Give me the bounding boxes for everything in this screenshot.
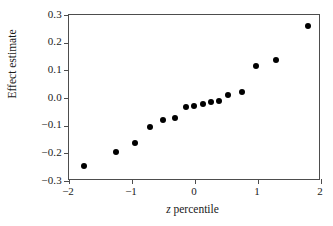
data-point — [253, 63, 259, 69]
x-axis-tick — [132, 179, 133, 184]
x-axis-tick-label: −1 — [125, 186, 137, 197]
x-axis-tick-labels: −2−1012 — [0, 186, 333, 200]
y-axis-tick-label: 0.0 — [48, 92, 62, 103]
x-axis-tick-label: 1 — [254, 186, 260, 197]
y-axis-tick-label: −0.3 — [41, 175, 62, 186]
x-axis-tick — [195, 179, 196, 184]
data-point — [113, 149, 119, 155]
y-axis-title: Effect estimate — [6, 4, 18, 124]
data-point — [172, 115, 178, 121]
data-point — [208, 99, 214, 105]
data-point — [183, 104, 189, 110]
y-axis-tick-label: 0.2 — [48, 36, 62, 47]
x-axis-title: z percentile — [0, 203, 333, 215]
data-point — [216, 98, 222, 104]
data-point — [225, 92, 231, 98]
x-axis-tick-label: 0 — [191, 186, 197, 197]
normal-probability-plot-figure: −0.3−0.2−0.10.00.10.20.3 −2−1012 Effect … — [0, 0, 333, 226]
scatter-data-layer — [69, 15, 319, 179]
plot-frame — [68, 14, 320, 180]
y-axis-tick-label: 0.3 — [48, 9, 62, 20]
x-axis-tick — [258, 179, 259, 184]
y-axis-tick-label: −0.2 — [41, 147, 62, 158]
y-axis-tick-label: 0.1 — [48, 64, 62, 75]
data-point — [160, 117, 166, 123]
data-point — [81, 163, 87, 169]
x-axis-tick-label: −2 — [62, 186, 74, 197]
y-axis-tick-label: −0.1 — [41, 119, 62, 130]
data-point — [239, 89, 245, 95]
x-axis-tick — [69, 179, 70, 184]
x-axis-title-rest: percentile — [171, 203, 219, 215]
data-point — [305, 23, 311, 29]
data-point — [132, 140, 138, 146]
data-point — [200, 101, 206, 107]
data-point — [147, 124, 153, 130]
data-point — [191, 103, 197, 109]
data-point — [273, 57, 279, 63]
x-axis-tick-label: 2 — [317, 186, 323, 197]
x-axis-tick — [321, 179, 322, 184]
